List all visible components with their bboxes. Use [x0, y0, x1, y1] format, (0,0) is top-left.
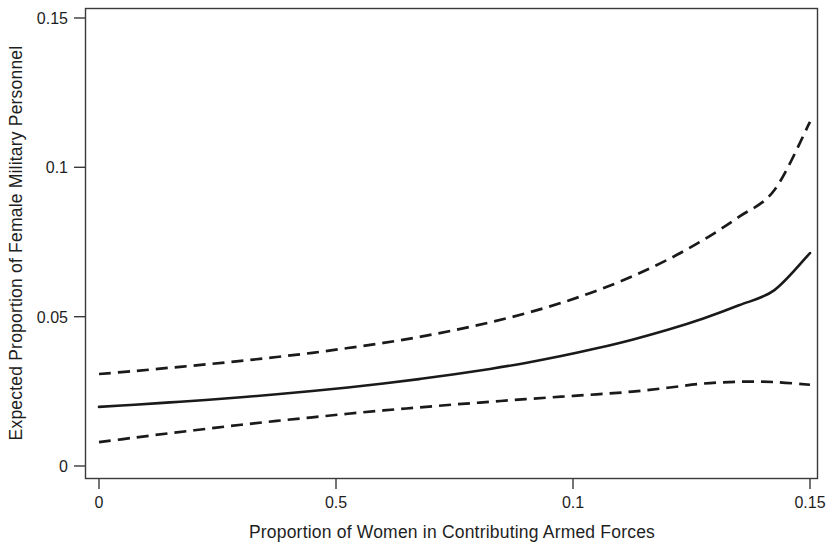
figure-container: 0.15 0.1 0.05 0 0 0.5 0.1 0.15 Proportio…	[0, 0, 833, 548]
chart-canvas: 0.15 0.1 0.05 0 0 0.5 0.1 0.15 Proportio…	[0, 0, 833, 548]
y-tick-label-2: 0.1	[46, 159, 68, 176]
y-tick-label-3: 0.15	[37, 10, 68, 27]
y-axis-title: Expected Proportion of Female Military P…	[6, 46, 26, 441]
x-tick-label-0: 0	[95, 494, 104, 511]
x-axis-ticks	[99, 479, 810, 490]
plot-frame	[86, 9, 818, 479]
expected-proportion-curve	[99, 253, 810, 407]
x-tick-label-3: 0.15	[794, 494, 825, 511]
x-tick-label-1: 0.5	[325, 494, 347, 511]
lower-confidence-bound-curve	[99, 382, 810, 442]
y-axis-ticks	[74, 18, 85, 466]
x-axis-tick-labels: 0 0.5 0.1 0.15	[95, 494, 826, 511]
data-series-group	[99, 122, 810, 442]
x-axis-title: Proportion of Women in Contributing Arme…	[249, 522, 655, 542]
y-tick-label-1: 0.05	[37, 309, 68, 326]
y-tick-label-0: 0	[59, 458, 68, 475]
y-axis-tick-labels: 0.15 0.1 0.05 0	[37, 10, 68, 475]
x-tick-label-2: 0.1	[562, 494, 584, 511]
upper-confidence-bound-curve	[99, 122, 810, 374]
